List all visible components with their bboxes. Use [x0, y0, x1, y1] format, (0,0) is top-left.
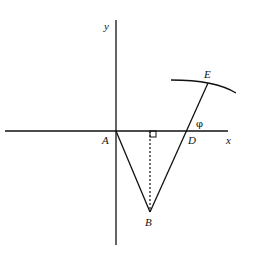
- point-label-D: D: [187, 134, 196, 146]
- segment-BE: [150, 83, 208, 212]
- y-axis-label: y: [103, 20, 109, 32]
- point-label-A: A: [101, 134, 109, 146]
- point-label-E: E: [203, 68, 211, 80]
- angle-label-phi: φ: [196, 118, 203, 129]
- geometry-diagram: y x A B D E φ: [0, 0, 254, 254]
- right-angle-marker: [150, 131, 156, 137]
- x-axis-label: x: [225, 134, 231, 146]
- segment-AB: [116, 131, 150, 212]
- arc-curve: [171, 80, 236, 93]
- point-label-B: B: [145, 216, 152, 228]
